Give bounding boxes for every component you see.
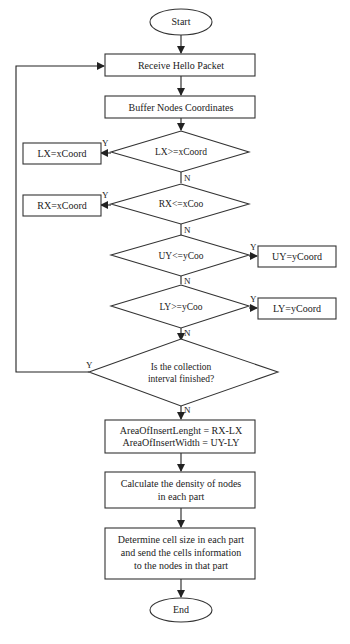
node-area-line1: AreaOfInsertLenght = RX-LX	[120, 425, 243, 436]
node-area: AreaOfInsertLenght = RX-LX AreaOfInsertW…	[105, 420, 255, 453]
node-decision-uy: UY<=yCoo	[111, 235, 249, 276]
node-set-uy: UY=yCoord	[258, 246, 336, 267]
node-cellsize: Determine cell size in each part and sen…	[105, 528, 255, 579]
label-no-interval: N	[184, 405, 191, 415]
node-decision-rx-label: RX<=xCoo	[159, 199, 204, 209]
node-decision-lx: LX>=xCoord	[111, 131, 249, 172]
flowchart: Y N Y N Y N Y N Y N Start Receive Hello …	[0, 0, 350, 644]
label-yes-ly: Y	[250, 294, 257, 304]
node-end-label: End	[173, 604, 189, 615]
label-no-rx: N	[184, 225, 191, 235]
node-decision-interval: Is the collection interval finished?	[89, 339, 278, 406]
node-decision-uy-label: UY<=yCoo	[158, 251, 203, 261]
label-no-ly: N	[184, 328, 191, 338]
node-cellsize-line3: to the nodes in that part	[134, 560, 228, 571]
edge-dinterval-receive-loop	[16, 66, 104, 372]
node-density: Calculate the density of nodes in each p…	[105, 472, 255, 508]
node-decision-rx: RX<=xCoo	[111, 184, 249, 224]
node-receive: Receive Hello Packet	[105, 54, 255, 76]
node-receive-label: Receive Hello Packet	[138, 60, 224, 71]
node-cellsize-line1: Determine cell size in each part	[118, 534, 245, 545]
node-area-line2: AreaOfInsertWidth = UY-LY	[123, 437, 240, 448]
label-yes-uy: Y	[250, 242, 257, 252]
node-set-uy-label: UY=yCoord	[272, 251, 322, 262]
node-set-ly: LY=yCoord	[258, 298, 336, 319]
node-set-rx: RX=xCoord	[23, 195, 101, 216]
node-set-lx: LX=xCoord	[23, 143, 101, 164]
node-end: End	[150, 598, 212, 622]
node-decision-ly-label: LY>=yCoo	[159, 302, 202, 312]
node-decision-ly: LY>=yCoo	[111, 285, 249, 328]
node-buffer-label: Buffer Nodes Coordinates	[129, 102, 234, 113]
label-yes-rx: Y	[102, 190, 109, 200]
label-yes-lx: Y	[102, 138, 109, 148]
node-buffer: Buffer Nodes Coordinates	[105, 96, 255, 118]
label-yes-interval: Y	[86, 360, 93, 370]
node-density-line1: Calculate the density of nodes	[121, 478, 242, 489]
node-start-label: Start	[172, 16, 191, 27]
node-set-rx-label: RX=xCoord	[37, 200, 87, 211]
node-cellsize-line2: and send the cells information	[121, 547, 242, 558]
node-density-line2: in each part	[158, 491, 205, 502]
node-set-lx-label: LX=xCoord	[38, 148, 87, 159]
node-start: Start	[150, 9, 212, 35]
label-no-uy: N	[184, 276, 191, 286]
node-decision-interval-line1: Is the collection	[151, 362, 212, 372]
node-set-ly-label: LY=yCoord	[273, 303, 321, 314]
edges	[16, 35, 257, 597]
node-decision-interval-line2: interval finished?	[148, 374, 214, 384]
label-no-lx: N	[184, 173, 191, 183]
node-decision-lx-label: LX>=xCoord	[155, 147, 207, 157]
